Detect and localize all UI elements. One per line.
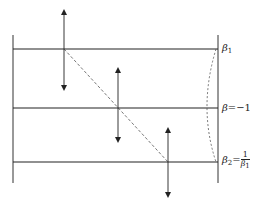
fraction: 1β1 bbox=[241, 151, 250, 170]
label-beta2: β2=1β1 bbox=[222, 151, 250, 170]
fraction-denominator: β1 bbox=[241, 160, 250, 170]
beta1-subscript: 1 bbox=[228, 47, 232, 55]
optics-diagram bbox=[0, 0, 255, 210]
dashed-arc bbox=[207, 49, 216, 162]
equals-sign: = bbox=[232, 154, 240, 165]
denominator-subscript: 1 bbox=[245, 162, 249, 170]
equals-minus-one: =−1 bbox=[228, 102, 251, 113]
dashed-diagonal-line bbox=[64, 49, 168, 162]
label-beta1: β1 bbox=[222, 43, 232, 55]
label-beta-minus1: β=−1 bbox=[222, 103, 251, 113]
